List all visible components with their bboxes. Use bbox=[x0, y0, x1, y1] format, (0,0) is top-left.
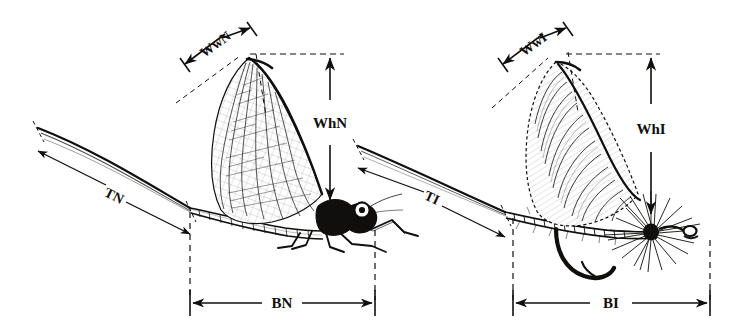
label-bi: BI bbox=[603, 295, 619, 311]
label-whn: WhN bbox=[313, 115, 347, 131]
label-bn: BN bbox=[272, 295, 293, 311]
fly-head bbox=[643, 224, 659, 241]
mayfly-measurement-diagram: WwN WhN TN BN WwI Wh bbox=[0, 0, 755, 333]
label-whi: WhI bbox=[636, 121, 665, 137]
figure-background bbox=[0, 0, 755, 333]
